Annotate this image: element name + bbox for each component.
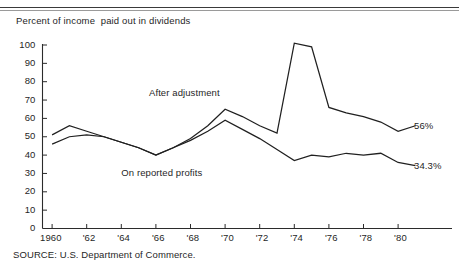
end-label-56: 56% xyxy=(414,120,433,131)
data-series xyxy=(52,43,415,165)
x-axis-label-76: '76 xyxy=(325,232,338,243)
x-axis-label-80: '80 xyxy=(394,232,407,243)
y-axis-label-50: 50 xyxy=(10,130,36,141)
y-axis-label-70: 70 xyxy=(10,94,36,105)
series-line-on-reported-profits xyxy=(52,120,415,165)
chart-figure: Percent of income paid out in dividends … xyxy=(0,0,459,273)
source-note: SOURCE: U.S. Department of Commerce. xyxy=(13,249,196,260)
annotation-on-reported-profits: On reported profits xyxy=(121,167,202,178)
x-axis-label-70: '70 xyxy=(221,232,234,243)
x-axis-label-64: '64 xyxy=(117,232,130,243)
y-axis-label-60: 60 xyxy=(10,112,36,123)
x-axis-label-72: '72 xyxy=(256,232,269,243)
x-axis-label-68: '68 xyxy=(187,232,200,243)
x-axis-label-62: '62 xyxy=(83,232,96,243)
y-axis-label-10: 10 xyxy=(10,204,36,215)
y-axis-label-80: 80 xyxy=(10,75,36,86)
y-axis-label-90: 90 xyxy=(10,57,36,68)
x-axis-label-78: '78 xyxy=(360,232,373,243)
y-axis-label-40: 40 xyxy=(10,149,36,160)
end-label-343: 34.3% xyxy=(414,160,441,171)
y-axis-label-30: 30 xyxy=(10,167,36,178)
y-axis-label-0: 0 xyxy=(10,222,36,233)
series-line-after-adjustment xyxy=(52,43,415,155)
x-axis-label-1960: 1960 xyxy=(40,232,62,243)
y-axis-label-20: 20 xyxy=(10,185,36,196)
x-axis-label-74: '74 xyxy=(290,232,303,243)
y-axis-label-100: 100 xyxy=(10,39,36,50)
annotation-after-adjustment: After adjustment xyxy=(149,87,220,98)
x-axis-label-66: '66 xyxy=(152,232,165,243)
